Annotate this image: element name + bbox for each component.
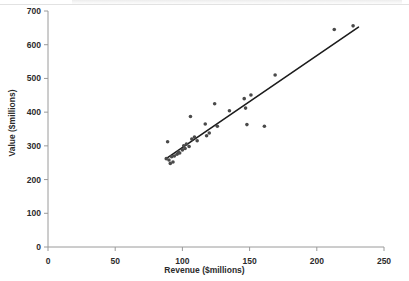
data-point-marker xyxy=(216,125,220,129)
data-point-marker xyxy=(245,123,249,127)
trendline xyxy=(168,27,359,157)
data-point-marker xyxy=(185,142,189,146)
data-point-marker xyxy=(166,140,170,144)
data-point-marker xyxy=(244,106,248,110)
y-tick-label: 700 xyxy=(0,6,41,16)
data-point-marker xyxy=(178,151,182,155)
data-point-marker xyxy=(213,102,217,106)
data-point-marker xyxy=(332,28,336,32)
data-point-marker xyxy=(187,145,191,149)
y-tick-label: 600 xyxy=(0,40,41,50)
y-tick-label: 0 xyxy=(0,242,41,252)
chart-canvas xyxy=(0,0,409,281)
scatter-chart: 0100200300400500600700 050100150200250 V… xyxy=(0,0,409,281)
data-point-marker xyxy=(228,109,232,113)
data-point-marker xyxy=(273,73,277,77)
data-point-marker xyxy=(207,131,211,135)
regression-line xyxy=(168,27,359,157)
data-point-marker xyxy=(263,125,267,129)
data-point-marker xyxy=(167,158,171,162)
data-point-marker xyxy=(189,115,193,119)
y-axis-title: Value ($millions) xyxy=(7,73,17,173)
data-point-marker xyxy=(249,93,253,97)
data-point-marker xyxy=(193,135,197,139)
y-tick-label: 100 xyxy=(0,208,41,218)
data-point-marker xyxy=(351,24,355,28)
data-point-marker xyxy=(171,160,175,164)
data-point-marker xyxy=(205,134,209,138)
y-tick-label: 200 xyxy=(0,175,41,185)
data-point-marker xyxy=(195,139,199,143)
x-axis-title: Revenue ($millions) xyxy=(0,265,409,275)
data-point-marker xyxy=(203,122,207,126)
data-point-marker xyxy=(242,97,246,101)
axes xyxy=(44,11,384,251)
data-point-marker xyxy=(183,147,187,151)
